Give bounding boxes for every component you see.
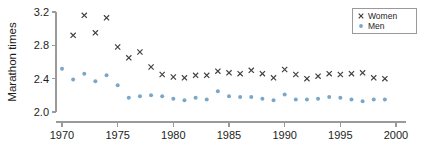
- data-point-men: [260, 97, 264, 101]
- x-tick-label: 1970: [50, 129, 74, 141]
- data-point-women: [349, 71, 354, 76]
- x-tick-label: 1990: [272, 129, 296, 141]
- data-point-women: [338, 72, 343, 77]
- data-point-women: [115, 44, 120, 49]
- data-point-men: [249, 95, 253, 99]
- data-point-men: [227, 94, 231, 98]
- marathon-times-chart: 2.02.42.83.21970197519801985199019952000…: [0, 0, 426, 142]
- data-point-women: [137, 49, 142, 54]
- data-point-women: [171, 74, 176, 79]
- data-point-women: [293, 72, 298, 77]
- data-point-men: [283, 93, 287, 97]
- y-tick-label: 2.4: [34, 73, 49, 85]
- data-point-men: [383, 98, 387, 102]
- chart-canvas: 2.02.42.83.21970197519801985199019952000…: [0, 0, 426, 142]
- data-point-men: [182, 98, 186, 102]
- data-point-women: [104, 15, 109, 20]
- data-point-men: [316, 97, 320, 101]
- data-point-women: [271, 75, 276, 80]
- x-tick-label: 1975: [105, 129, 129, 141]
- x-tick-label: 1980: [161, 129, 185, 141]
- legend-label: Men: [368, 21, 385, 31]
- data-point-women: [193, 73, 198, 78]
- data-point-men: [71, 78, 75, 82]
- data-point-women: [282, 67, 287, 72]
- data-point-women: [182, 75, 187, 80]
- data-point-men: [338, 96, 342, 100]
- data-point-women: [304, 76, 309, 81]
- data-points: [60, 13, 387, 103]
- data-point-women: [249, 68, 254, 73]
- data-point-men: [194, 96, 198, 100]
- data-point-women: [93, 30, 98, 35]
- data-point-women: [371, 75, 376, 80]
- data-point-men: [60, 67, 64, 71]
- data-point-men: [349, 98, 353, 102]
- y-tick-label: 2.8: [34, 39, 49, 51]
- data-point-men: [82, 72, 86, 76]
- data-point-women: [204, 73, 209, 78]
- data-point-women: [160, 72, 165, 77]
- data-point-women: [382, 76, 387, 81]
- y-tick-label: 3.2: [34, 6, 49, 18]
- x-tick-label: 1985: [217, 129, 241, 141]
- data-point-women: [126, 55, 131, 60]
- data-point-women: [260, 71, 265, 76]
- series-women: [71, 13, 388, 82]
- data-point-men: [238, 95, 242, 99]
- data-point-men: [372, 98, 376, 102]
- data-point-men: [272, 98, 276, 102]
- data-point-women: [71, 33, 76, 38]
- data-point-women: [148, 64, 153, 69]
- data-point-men: [149, 93, 153, 97]
- data-point-men: [216, 89, 220, 93]
- data-point-women: [360, 70, 365, 75]
- x-tick-label: 1995: [328, 129, 352, 141]
- data-point-women: [327, 71, 332, 76]
- data-point-men: [294, 98, 298, 102]
- data-point-men: [205, 98, 209, 102]
- data-point-men: [305, 98, 309, 102]
- legend-marker-dot-icon: [359, 24, 363, 28]
- x-tick-label: 2000: [384, 129, 408, 141]
- data-point-men: [93, 79, 97, 83]
- data-point-women: [238, 71, 243, 76]
- data-point-men: [327, 95, 331, 99]
- data-point-women: [226, 70, 231, 75]
- data-point-men: [138, 94, 142, 98]
- data-point-men: [105, 73, 109, 77]
- axes: 2.02.42.83.21970197519801985199019952000…: [6, 6, 408, 141]
- data-point-men: [127, 96, 131, 100]
- data-point-women: [215, 69, 220, 74]
- data-point-men: [160, 94, 164, 98]
- data-point-women: [315, 74, 320, 79]
- chart-legend: WomenMen: [352, 8, 416, 33]
- data-point-women: [82, 13, 87, 18]
- data-point-men: [361, 99, 365, 103]
- data-point-men: [171, 97, 175, 101]
- legend-label: Women: [368, 11, 397, 21]
- y-tick-label: 2.0: [34, 106, 49, 118]
- data-point-men: [116, 83, 120, 87]
- y-axis-title: Marathon times: [6, 22, 18, 102]
